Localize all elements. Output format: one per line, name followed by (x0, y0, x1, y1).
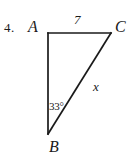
side-length-label-bc: x (93, 80, 99, 93)
side-length-label-ac: 7 (74, 13, 81, 26)
geometry-figure: 4. A C B 7 x 33° (0, 0, 136, 158)
vertex-label-a: A (28, 19, 38, 35)
angle-measure-label-b: 33° (49, 101, 64, 112)
side-bc-line (48, 33, 111, 134)
vertex-label-c: C (115, 19, 126, 35)
problem-number: 4. (4, 21, 15, 34)
vertex-label-b: B (49, 139, 59, 155)
